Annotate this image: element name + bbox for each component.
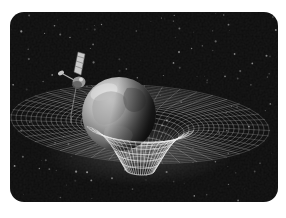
photo-page [0,0,286,218]
spacetime-illustration [0,0,286,218]
space-illustration-svg [0,0,286,218]
